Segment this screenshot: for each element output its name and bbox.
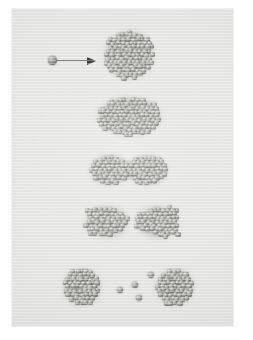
particle-sphere	[88, 231, 93, 236]
particle-sphere	[100, 179, 105, 184]
free-monomer-sphere	[132, 282, 138, 288]
particle-sphere	[102, 126, 107, 131]
figure-root	[0, 0, 253, 340]
particle-sphere	[138, 180, 143, 185]
particle-sphere	[167, 301, 172, 306]
particle-sphere	[163, 234, 168, 239]
particle-sphere	[92, 207, 97, 212]
free-monomer-sphere	[117, 287, 123, 293]
particle-sphere	[75, 300, 80, 305]
particle-sphere	[121, 76, 126, 81]
particle-sphere	[107, 232, 112, 237]
particle-sphere	[158, 227, 163, 232]
particle-sphere	[175, 232, 180, 237]
particle-sphere	[177, 301, 182, 306]
simulation-panel	[12, 9, 233, 326]
particle-sphere	[113, 228, 118, 233]
particle-sphere	[93, 176, 98, 181]
particle-sphere	[140, 130, 145, 135]
free-monomer-sphere	[136, 295, 142, 301]
particle-stage	[12, 9, 233, 326]
particle-sphere	[137, 71, 142, 76]
particle-sphere	[146, 65, 151, 70]
particle-sphere	[136, 36, 141, 41]
particle-sphere	[132, 75, 137, 80]
particle-sphere	[71, 283, 76, 288]
free-monomer-sphere	[148, 272, 154, 278]
particle-sphere	[65, 292, 70, 297]
particle-sphere	[113, 180, 118, 185]
particle-sphere	[109, 67, 114, 72]
particle-sphere	[145, 129, 150, 134]
particle-sphere	[105, 180, 110, 185]
